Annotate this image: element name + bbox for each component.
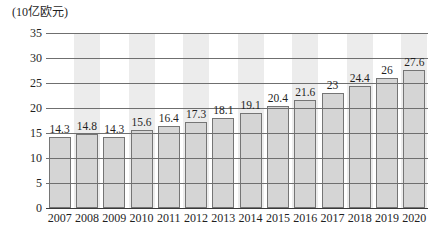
bar-2015	[267, 106, 289, 208]
y-tick-label-20: 20	[0, 102, 42, 115]
bar-2007	[49, 137, 71, 209]
y-tick-label-10: 10	[0, 152, 42, 165]
plot-area: 14.314.814.315.616.417.318.119.120.421.6…	[46, 33, 428, 208]
gridline-5	[46, 183, 428, 184]
y-tick-label-35: 35	[0, 27, 42, 40]
bar-2017	[322, 93, 344, 208]
bar-2010	[131, 130, 153, 208]
y-tick-label-15: 15	[0, 127, 42, 140]
bar-2020	[403, 70, 425, 208]
x-tick-label-2016: 2016	[292, 212, 319, 225]
bar-2008	[76, 134, 98, 208]
bar-value-label-2019: 26	[381, 64, 393, 76]
bar-value-label-2015: 20.4	[268, 92, 288, 104]
x-tick-label-2014: 2014	[237, 212, 264, 225]
y-tick-label-25: 25	[0, 77, 42, 90]
x-tick-label-2008: 2008	[73, 212, 100, 225]
gridline-20	[46, 108, 428, 109]
x-axis-line	[46, 208, 428, 209]
x-tick-label-2018: 2018	[346, 212, 373, 225]
x-tick-label-2010: 2010	[128, 212, 155, 225]
x-tick-label-2017: 2017	[319, 212, 346, 225]
bar-chart: (10亿欧元) 35302520151050 14.314.814.315.61…	[0, 0, 447, 237]
bar-2009	[103, 137, 125, 209]
x-tick-label-2007: 2007	[46, 212, 73, 225]
bar-value-label-2012: 17.3	[186, 108, 206, 120]
bar-value-label-2011: 16.4	[159, 112, 179, 124]
x-tick-label-2013: 2013	[210, 212, 237, 225]
gridline-35	[46, 33, 428, 34]
y-tick-label-5: 5	[0, 177, 42, 190]
bar-value-label-2016: 21.6	[295, 86, 315, 98]
x-tick-label-2019: 2019	[373, 212, 400, 225]
y-tick-label-0: 0	[0, 202, 42, 215]
bar-value-label-2020: 27.6	[404, 56, 424, 68]
bar-2019	[376, 78, 398, 208]
x-tick-label-2015: 2015	[264, 212, 291, 225]
gridline-25	[46, 83, 428, 84]
bar-2011	[158, 126, 180, 208]
y-axis: 35302520151050	[0, 0, 42, 237]
bar-value-label-2008: 14.8	[77, 120, 97, 132]
x-tick-label-2012: 2012	[182, 212, 209, 225]
bar-2016	[294, 100, 316, 208]
gridline-10	[46, 158, 428, 159]
x-tick-label-2020: 2020	[401, 212, 428, 225]
bar-value-label-2017: 23	[327, 79, 339, 91]
bar-value-label-2014: 19.1	[241, 99, 261, 111]
gridline-30	[46, 58, 428, 59]
x-tick-label-2011: 2011	[155, 212, 182, 225]
y-tick-label-30: 30	[0, 52, 42, 65]
bar-value-label-2009: 14.3	[104, 123, 124, 135]
bar-2014	[240, 113, 262, 209]
bar-2012	[185, 122, 207, 209]
bar-2013	[212, 118, 234, 209]
bar-value-label-2018: 24.4	[350, 72, 370, 84]
bar-2018	[349, 86, 371, 208]
bar-value-label-2013: 18.1	[213, 104, 233, 116]
bar-value-label-2007: 14.3	[50, 123, 70, 135]
x-tick-label-2009: 2009	[101, 212, 128, 225]
bar-value-label-2010: 15.6	[131, 116, 151, 128]
x-axis: 2007200820092010201120122013201420152016…	[46, 212, 428, 225]
